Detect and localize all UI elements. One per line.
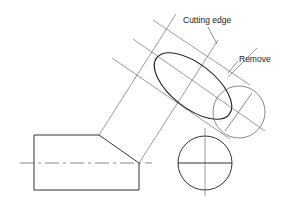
cut-face-ellipse xyxy=(143,40,243,131)
leader-lines xyxy=(208,27,238,73)
front-view xyxy=(34,135,139,190)
top-view-circle xyxy=(178,128,232,196)
cutting-edge-label: Cutting edge xyxy=(183,15,231,25)
end-circle xyxy=(213,86,265,138)
projection-lines xyxy=(99,14,218,163)
construction-lines xyxy=(112,20,265,139)
technical-diagram: Cutting edge Remove xyxy=(0,0,292,208)
remove-label: Remove xyxy=(239,54,271,64)
